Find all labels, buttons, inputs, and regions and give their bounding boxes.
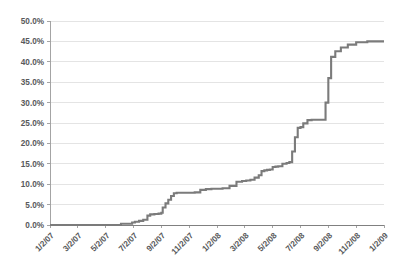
x-axis-tick-label: 1/2/07 xyxy=(33,231,56,254)
x-axis-tick-label: 1/2/08 xyxy=(200,231,223,254)
y-axis-tick-label: 35.0% xyxy=(21,78,45,87)
y-axis-tick-label: 45.0% xyxy=(21,37,45,46)
chart-container: 0.0%5.0%10.0%15.0%20.0%25.0%30.0%35.0%40… xyxy=(0,0,398,268)
x-axis-tick-label: 11/2/08 xyxy=(337,231,363,257)
x-axis-tick-label: 5/2/08 xyxy=(256,231,279,254)
y-axis-tick-label: 50.0% xyxy=(21,17,45,26)
y-axis-tick-label: 25.0% xyxy=(21,119,45,128)
gridlines xyxy=(47,21,384,225)
x-axis-tick-label: 11/2/07 xyxy=(170,231,196,257)
y-axis-tick-label: 15.0% xyxy=(21,160,45,169)
x-axis-tick-label: 3/2/07 xyxy=(61,231,84,254)
x-axis-tick-label: 7/2/07 xyxy=(117,231,140,254)
x-axis-tick-label: 3/2/08 xyxy=(228,231,251,254)
y-axis-tick-label: 30.0% xyxy=(21,99,45,108)
y-axis-tick-label: 40.0% xyxy=(21,58,45,67)
x-axis-tick-label: 5/2/07 xyxy=(89,231,112,254)
x-axis-tick-label: 9/2/08 xyxy=(312,231,335,254)
line-chart: 0.0%5.0%10.0%15.0%20.0%25.0%30.0%35.0%40… xyxy=(0,0,398,268)
y-axis-tick-label: 0.0% xyxy=(25,221,44,230)
y-axis-tick-label: 10.0% xyxy=(21,180,45,189)
y-axis-tick-label: 5.0% xyxy=(25,201,44,210)
x-axis-tick-labels: 1/2/073/2/075/2/077/2/079/2/0711/2/071/2… xyxy=(33,231,390,257)
x-axis-tick-label: 1/2/09 xyxy=(367,231,390,254)
y-axis-tick-label: 20.0% xyxy=(21,139,45,148)
series-line-cumulative-percentage xyxy=(50,41,384,225)
x-axis-tick-label: 9/2/07 xyxy=(145,231,168,254)
x-axis-tick-label: 7/2/08 xyxy=(284,231,307,254)
y-axis-tick-labels: 0.0%5.0%10.0%15.0%20.0%25.0%30.0%35.0%40… xyxy=(21,17,45,230)
